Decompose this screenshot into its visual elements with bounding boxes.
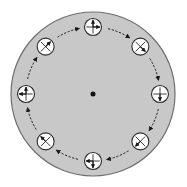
marker-bottom-right xyxy=(132,133,149,150)
marker-top-left xyxy=(37,38,54,55)
rotating-disk-diagram xyxy=(0,0,187,187)
marker-bottom-left xyxy=(37,133,54,150)
marker-top-right xyxy=(132,38,149,55)
marker-top xyxy=(85,19,102,36)
marker-left xyxy=(18,86,35,103)
diagram-canvas xyxy=(0,0,187,187)
marker-bottom xyxy=(85,153,102,170)
marker-right xyxy=(152,86,169,103)
center-axis-dot xyxy=(91,92,96,97)
